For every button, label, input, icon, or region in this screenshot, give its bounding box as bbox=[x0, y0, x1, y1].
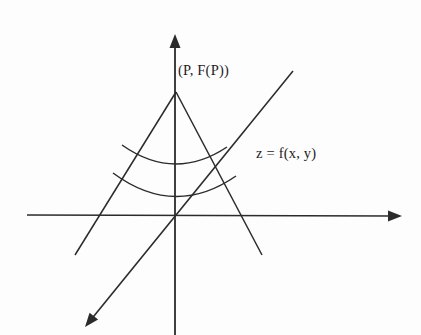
cone-left-edge bbox=[75, 92, 176, 255]
cone-surface bbox=[75, 92, 262, 255]
cone-right-edge bbox=[176, 92, 262, 255]
math-diagram-canvas: (P, F(P)) z = f(x, y) bbox=[0, 0, 421, 335]
vertical-axis-arrowhead bbox=[170, 34, 181, 48]
horizontal-axis bbox=[27, 210, 402, 221]
depth-axis-arrowhead bbox=[85, 313, 98, 327]
depth-axis bbox=[85, 71, 293, 327]
apex-point-label: (P, F(P)) bbox=[178, 63, 229, 78]
vertical-axis bbox=[170, 34, 181, 335]
horizontal-axis-arrowhead bbox=[388, 210, 402, 221]
surface-equation-label: z = f(x, y) bbox=[256, 146, 316, 161]
diagram-vector-layer bbox=[0, 0, 421, 335]
horizontal-axis-line bbox=[27, 215, 391, 216]
